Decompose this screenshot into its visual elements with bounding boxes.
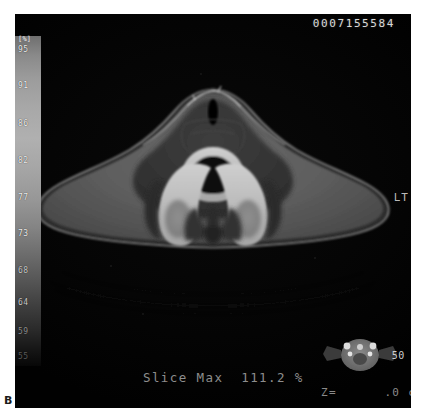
localizer-marker-3 bbox=[357, 344, 363, 350]
stat-value-slice-max: 111.2 % bbox=[241, 370, 303, 385]
colorbar-tick-95: 95 bbox=[18, 46, 28, 54]
dose-colorbar-unit: [%] bbox=[18, 36, 31, 43]
localizer-thumbnail[interactable]: 50 bbox=[317, 332, 403, 378]
colorbar-tick-64: 64 bbox=[18, 299, 28, 307]
study-id-label: 0007155584 bbox=[313, 17, 395, 30]
z-position-value: .0 bbox=[384, 386, 400, 399]
localizer-level-label: 50 bbox=[392, 350, 405, 361]
localizer-marker-5 bbox=[368, 352, 373, 357]
colorbar-tick-59: 59 bbox=[18, 328, 28, 336]
stat-row-slice-max: Slice Max 111.2 % bbox=[143, 367, 304, 389]
panel-label: B bbox=[4, 394, 13, 407]
z-position-unit: cm bbox=[408, 386, 411, 399]
colorbar-tick-91: 91 bbox=[18, 82, 28, 90]
colorbar-tick-73: 73 bbox=[18, 230, 28, 238]
dose-colorbar[interactable]: [%] 95 91 86 82 77 73 68 64 59 55 bbox=[15, 36, 41, 366]
colorbar-tick-82: 82 bbox=[18, 157, 28, 165]
ct-image-viewport[interactable]: 0007155584 [%] 95 91 86 82 77 73 68 64 5… bbox=[15, 14, 411, 408]
orientation-marker-left: LT bbox=[394, 191, 409, 204]
colorbar-tick-86: 86 bbox=[18, 120, 28, 128]
localizer-beam-right bbox=[323, 346, 341, 361]
colorbar-tick-55: 55 bbox=[18, 353, 28, 361]
colorbar-tick-68: 68 bbox=[18, 267, 28, 275]
z-position-readout: Z= .0 cm bbox=[321, 386, 411, 399]
localizer-marker-1 bbox=[344, 343, 351, 350]
stat-label-slice-max: Slice Max bbox=[143, 370, 223, 385]
localizer-marker-4 bbox=[348, 352, 353, 357]
colorbar-tick-77: 77 bbox=[18, 194, 28, 202]
z-position-label: Z= bbox=[321, 386, 337, 399]
localizer-marker-2 bbox=[370, 343, 377, 350]
dose-statistics-overlay: Slice Max 111.2 % Max 111.2% Min 92.1% M… bbox=[143, 324, 304, 408]
